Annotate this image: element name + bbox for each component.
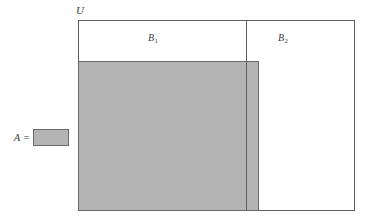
partition-label-b2-subscript: 2 — [285, 37, 288, 44]
partition-label-b1-subscript: 1 — [155, 37, 158, 44]
legend: A = — [14, 129, 69, 146]
set-a-shaded-region — [78, 61, 259, 211]
partition-label-b2-base: B — [278, 32, 284, 43]
partition-label-b1-base: B — [148, 32, 154, 43]
legend-equals-sign: = — [23, 133, 30, 143]
set-diagram-figure: U B1 B2 A = — [0, 0, 377, 223]
universe-label: U — [76, 5, 84, 16]
partition-divider-line — [246, 20, 247, 211]
partition-label-b1: B1 — [148, 33, 158, 43]
legend-label-a: A — [14, 133, 20, 143]
legend-color-swatch — [33, 129, 69, 146]
partition-label-b2: B2 — [278, 33, 288, 43]
